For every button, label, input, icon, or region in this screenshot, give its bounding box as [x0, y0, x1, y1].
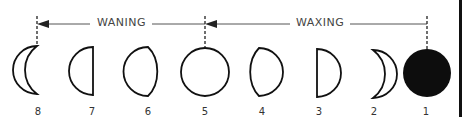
first-quarter-icon: [317, 49, 341, 97]
waxing-gibbous-icon: [250, 48, 283, 96]
phase-number-1: 1: [416, 106, 436, 117]
waning-arrowhead-icon: [37, 20, 49, 28]
phase-number-8: 8: [28, 106, 48, 117]
waxing-crescent-icon: [373, 50, 397, 98]
phase-number-2: 2: [364, 106, 384, 117]
waning-gibbous-icon: [124, 47, 158, 96]
moon-phase-diagram: [0, 0, 464, 127]
new-moon-icon: [403, 49, 451, 97]
right-edge-border: [459, 0, 462, 117]
phase-number-7: 7: [82, 106, 102, 117]
waxing-label: WAXING: [290, 16, 350, 29]
phase-number-3: 3: [309, 106, 329, 117]
phase-number-6: 6: [138, 106, 158, 117]
phase-number-4: 4: [252, 106, 272, 117]
waxing-arrowhead-icon: [205, 20, 217, 28]
waning-crescent-icon: [13, 46, 37, 94]
last-quarter-icon: [69, 47, 93, 95]
waning-label: WANING: [91, 16, 152, 29]
full-moon-icon: [181, 48, 229, 96]
phase-number-5: 5: [195, 106, 215, 117]
